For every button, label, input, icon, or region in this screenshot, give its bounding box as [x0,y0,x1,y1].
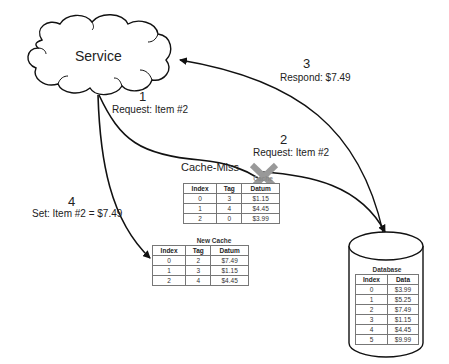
table-row: 5 $9.99 [356,335,419,345]
cache-cell: $1.15 [242,194,280,204]
cache-header-row: Index Tag Datum [184,184,280,194]
table-row: 0 2 $7.49 [153,256,249,266]
step-3-text: Respond: $7.49 [280,72,351,83]
table-row: 0 $3.99 [356,285,419,295]
new-cache-cell: 0 [153,256,186,266]
new-cache-cell: 1 [153,266,186,276]
database-cell: 2 [356,305,388,315]
table-row: 2 0 $3.99 [184,214,280,224]
cache-cell: 0 [217,214,242,224]
table-row: 1 4 $4.45 [184,204,280,214]
database-cell: 0 [356,285,388,295]
cache-cell: 3 [217,194,242,204]
table-row: 2 $7.49 [356,305,419,315]
new-cache-cell: 2 [153,276,186,286]
database-header-row: Index Data [356,275,419,285]
new-cache-header-datum: Datum [211,246,249,256]
table-row: 2 4 $4.45 [153,276,249,286]
cache-header-index: Index [184,184,217,194]
cache-header-datum: Datum [242,184,280,194]
new-cache-header-tag: Tag [186,246,211,256]
new-cache-cell: $1.15 [211,266,249,276]
new-cache-cell: $7.49 [211,256,249,266]
cache-cell: 4 [217,204,242,214]
database-table: Index Data 0 $3.99 1 $5.25 2 $7.49 3 $1.… [355,274,419,345]
table-row: 0 3 $1.15 [184,194,280,204]
database-cell: $5.25 [387,295,418,305]
database-cell: 3 [356,315,388,325]
service-label: Service [75,48,122,64]
database-cell: $7.49 [387,305,418,315]
database-cell: 5 [356,335,388,345]
cache-cell: 2 [184,214,217,224]
new-cache-cell: 2 [186,256,211,266]
step-2-text: Request: Item #2 [253,147,329,158]
cache-title: Cache [233,175,293,182]
new-cache-cell: 3 [186,266,211,276]
table-row: 1 3 $1.15 [153,266,249,276]
new-cache-title: New Cache [184,237,244,244]
database-cell: $1.15 [387,315,418,325]
cache-table: Index Tag Datum 0 3 $1.15 1 4 $4.45 2 0 … [183,183,280,224]
step-4-number: 4 [68,194,75,209]
database-header-index: Index [356,275,388,285]
step-1-text: Request: Item #2 [112,104,188,115]
cache-cell: 0 [184,194,217,204]
step-4-text: Set: Item #2 = $7.49 [32,208,122,219]
table-row: 3 $1.15 [356,315,419,325]
database-cell: $4.45 [387,325,418,335]
step-3-number: 3 [303,56,310,71]
arrow-step-4 [98,95,150,258]
cache-cell: 1 [184,204,217,214]
new-cache-cell: 4 [186,276,211,286]
database-cell: 4 [356,325,388,335]
cache-header-tag: Tag [217,184,242,194]
database-cell: $3.99 [387,285,418,295]
step-1-number: 1 [139,89,146,104]
step-2-number: 2 [280,132,287,147]
table-row: 4 $4.45 [356,325,419,335]
new-cache-header-row: Index Tag Datum [153,246,249,256]
database-header-data: Data [387,275,418,285]
new-cache-cell: $4.45 [211,276,249,286]
database-title: Database [361,266,413,273]
new-cache-header-index: Index [153,246,186,256]
cache-cell: $4.45 [242,204,280,214]
table-row: 1 $5.25 [356,295,419,305]
new-cache-table: Index Tag Datum 0 2 $7.49 1 3 $1.15 2 4 … [152,245,249,286]
database-cell: $9.99 [387,335,418,345]
cache-miss-label: Cache-Miss [181,161,239,173]
cache-cell: $3.99 [242,214,280,224]
database-cell: 1 [356,295,388,305]
